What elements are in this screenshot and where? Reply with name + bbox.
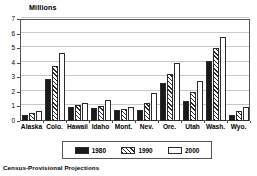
bar: [213, 48, 219, 121]
population-projection-chart: Millions 01234567 AlaskaColo.HawaiiIdaho…: [0, 0, 257, 176]
x-axis: AlaskaColo.HawaiiIdahoMont.Nev.Ore.UtahW…: [20, 123, 250, 135]
y-axis-tick-label: 0: [11, 118, 15, 124]
bar: [91, 108, 97, 121]
x-axis-tick-label: Mont.: [115, 123, 133, 131]
bar: [82, 103, 88, 121]
bar: [36, 111, 42, 121]
y-axis: 01234567: [0, 19, 20, 121]
chart-legend: 198019902000: [62, 141, 212, 159]
bar-group: [158, 19, 181, 121]
bar-group: [181, 19, 204, 121]
bar-group: [204, 19, 227, 121]
y-axis-tick-label: 4: [11, 60, 15, 66]
bar-group: [135, 19, 158, 121]
x-axis-tick-mark: [112, 121, 113, 123]
bar: [174, 63, 180, 121]
bar: [206, 61, 212, 121]
bar: [160, 83, 166, 121]
chart-axis-title: Millions: [29, 3, 57, 12]
bar-group: [20, 19, 43, 121]
bar: [114, 110, 120, 121]
x-axis-tick-label: Ore.: [163, 123, 176, 131]
x-axis-tick-mark: [89, 121, 90, 123]
bar: [59, 53, 65, 121]
x-axis-tick-label: Wyo.: [231, 123, 247, 131]
bar: [22, 115, 28, 121]
x-axis-tick-label: Hawaii: [67, 123, 88, 131]
bar: [137, 110, 143, 121]
bar: [183, 101, 189, 121]
y-axis-tick-label: 3: [11, 74, 15, 80]
y-axis-tick-label: 2: [11, 89, 15, 95]
x-axis-tick-mark: [250, 121, 251, 123]
chart-footnote: Census-Provisional Projections: [3, 164, 99, 171]
bar: [29, 113, 35, 121]
x-axis-tick-mark: [135, 121, 136, 123]
x-axis-tick-label: Wash.: [206, 123, 225, 131]
x-axis-tick-label: Colo.: [46, 123, 62, 131]
bar: [243, 107, 249, 121]
y-axis-tick-label: 7: [11, 16, 15, 22]
x-axis-tick-label: Nev.: [140, 123, 153, 131]
bar-group: [112, 19, 135, 121]
bar: [128, 107, 134, 121]
bar: [75, 105, 81, 121]
legend-swatch-icon: [75, 147, 89, 154]
legend-label: 2000: [185, 147, 199, 154]
bar: [236, 111, 242, 121]
bar: [144, 103, 150, 121]
bar: [45, 79, 51, 121]
x-axis-tick-label: Alaska: [21, 123, 42, 131]
bar-group: [43, 19, 66, 121]
legend-label: 1980: [92, 147, 106, 154]
bar: [229, 115, 235, 121]
legend-swatch-icon: [168, 147, 182, 154]
bar: [121, 109, 127, 121]
bar: [68, 107, 74, 121]
legend-label: 1990: [138, 147, 152, 154]
bar: [197, 81, 203, 121]
legend-item[interactable]: 1980: [75, 147, 106, 154]
legend-swatch-icon: [121, 147, 135, 154]
bar-group: [89, 19, 112, 121]
x-axis-tick-mark: [181, 121, 182, 123]
bar: [52, 66, 58, 121]
bar: [220, 37, 226, 122]
bar: [167, 74, 173, 121]
bar-group: [227, 19, 250, 121]
bar: [190, 92, 196, 121]
bar: [98, 106, 104, 121]
y-axis-tick-label: 1: [11, 103, 15, 109]
y-axis-tick-label: 5: [11, 45, 15, 51]
gridline: [21, 17, 249, 18]
legend-item[interactable]: 2000: [168, 147, 199, 154]
x-axis-tick-mark: [204, 121, 205, 123]
bar: [151, 93, 157, 121]
y-axis-tick-label: 6: [11, 30, 15, 36]
x-axis-tick-mark: [43, 121, 44, 123]
x-axis-tick-label: Idaho: [92, 123, 110, 131]
x-axis-tick-mark: [158, 121, 159, 123]
x-axis-tick-mark: [227, 121, 228, 123]
bar: [105, 100, 111, 121]
bars-layer: [20, 19, 250, 121]
legend-item[interactable]: 1990: [121, 147, 152, 154]
bar-group: [66, 19, 89, 121]
x-axis-tick-label: Utah: [185, 123, 200, 131]
y-axis-tick-mark: [17, 121, 20, 122]
